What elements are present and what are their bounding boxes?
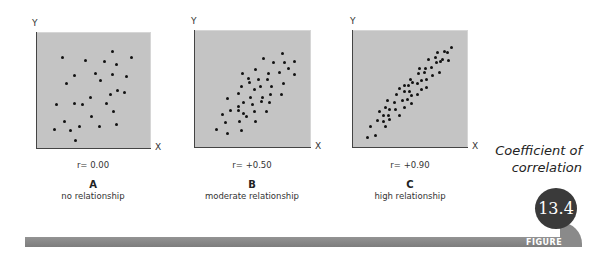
data-point <box>111 73 114 76</box>
data-point <box>262 57 265 60</box>
x-axis-label: X <box>155 142 161 152</box>
scatter-plot-a <box>36 32 151 149</box>
data-point <box>447 59 450 62</box>
data-point <box>293 60 296 63</box>
data-point <box>63 120 66 123</box>
data-point <box>111 50 114 53</box>
y-axis-label: Y <box>350 16 356 26</box>
data-point <box>384 106 387 109</box>
data-point <box>411 81 414 84</box>
panel-letter: A <box>33 179 153 190</box>
data-point <box>423 71 426 74</box>
data-point <box>394 108 397 111</box>
data-point <box>226 132 229 135</box>
data-point <box>439 60 442 63</box>
data-point <box>257 78 260 81</box>
r-value: r= 0.00 <box>33 160 153 170</box>
data-point <box>116 89 119 92</box>
data-point <box>281 52 284 55</box>
data-point <box>73 74 76 77</box>
data-point <box>247 77 250 80</box>
data-point <box>427 58 430 61</box>
data-point <box>406 98 409 101</box>
data-point <box>89 96 92 99</box>
data-point <box>417 72 420 75</box>
data-point <box>283 61 286 64</box>
data-point <box>249 96 252 99</box>
data-point <box>109 93 112 96</box>
x-axis-label: X <box>315 141 321 151</box>
data-point <box>103 60 106 63</box>
data-point <box>123 91 126 94</box>
data-point <box>240 129 243 132</box>
data-point <box>226 97 229 100</box>
data-point <box>438 71 441 74</box>
data-point <box>81 103 84 106</box>
data-point <box>395 93 398 96</box>
data-point <box>53 128 56 131</box>
data-point <box>418 67 421 70</box>
data-point <box>105 102 108 105</box>
figure-label: FIGURE <box>526 238 562 247</box>
data-point <box>425 78 428 81</box>
data-point <box>270 85 273 88</box>
data-point <box>450 46 453 49</box>
data-point <box>248 81 251 84</box>
data-point <box>241 72 244 75</box>
x-axis-label: X <box>472 141 478 151</box>
data-point <box>242 112 245 115</box>
data-point <box>74 139 77 142</box>
data-point <box>253 110 256 113</box>
data-point <box>245 115 248 118</box>
data-point <box>266 78 269 81</box>
panel-description: high relationship <box>340 191 480 201</box>
data-point <box>434 56 437 59</box>
data-point <box>265 110 268 113</box>
data-point <box>215 128 218 131</box>
data-point <box>403 106 406 109</box>
data-point <box>260 100 263 103</box>
data-point <box>237 92 240 95</box>
data-point <box>382 120 385 123</box>
data-point <box>254 68 257 71</box>
data-point <box>382 114 385 117</box>
data-point <box>398 114 401 117</box>
data-point <box>384 125 387 128</box>
data-point <box>366 136 369 139</box>
data-point <box>287 67 290 70</box>
figure-number-badge: 13.4 <box>535 188 577 229</box>
data-point <box>69 129 72 132</box>
data-point <box>420 88 423 91</box>
data-point <box>237 105 240 108</box>
y-axis-label: Y <box>191 16 197 26</box>
data-point <box>98 125 101 128</box>
data-point <box>242 101 245 104</box>
data-point <box>387 114 390 117</box>
data-point <box>55 103 58 106</box>
data-point <box>78 125 81 128</box>
data-point <box>278 71 281 74</box>
data-point <box>388 108 391 111</box>
data-point <box>410 94 413 97</box>
data-point <box>407 84 410 87</box>
r-value: r= +0.90 <box>350 160 470 170</box>
data-point <box>130 56 133 59</box>
data-point <box>112 110 115 113</box>
data-point <box>125 75 128 78</box>
data-point <box>99 79 102 82</box>
data-point <box>416 82 419 85</box>
data-point <box>416 93 419 96</box>
data-point <box>73 102 76 105</box>
data-point <box>240 85 243 88</box>
title-line-1: Coefficient of <box>495 142 582 159</box>
data-point <box>403 90 406 93</box>
data-point <box>430 66 433 69</box>
data-point <box>374 134 377 137</box>
data-point <box>224 121 227 124</box>
data-point <box>229 109 232 112</box>
y-axis-label: Y <box>32 18 38 28</box>
r-value: r= +0.50 <box>192 160 312 170</box>
data-point <box>398 87 401 90</box>
data-point <box>435 61 438 64</box>
data-point <box>272 61 275 64</box>
